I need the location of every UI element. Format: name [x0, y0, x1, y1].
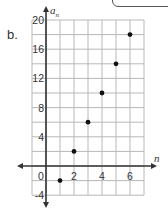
x-tick-label: 2 — [71, 170, 77, 182]
data-point — [86, 120, 91, 125]
x-tick-label: 4 — [99, 170, 105, 182]
y-tick-label: 8 — [38, 102, 44, 114]
x-tick-label: 6 — [127, 170, 133, 182]
scatter-plot: ann20161284-40246 — [0, 0, 168, 210]
y-axis-down-arrow-icon — [43, 202, 49, 208]
x-axis-label: n — [154, 152, 160, 164]
y-tick-label: 16 — [32, 43, 44, 55]
data-point — [100, 91, 105, 96]
data-point — [72, 149, 77, 154]
x-tick-label: 0 — [38, 170, 44, 182]
data-point — [114, 61, 119, 66]
x-axis-left-arrow-icon — [17, 163, 23, 169]
y-tick-label: 4 — [38, 131, 44, 143]
y-tick-label: -4 — [35, 189, 44, 201]
y-tick-label: 12 — [32, 72, 44, 84]
data-point — [128, 32, 133, 37]
y-tick-label: 20 — [32, 14, 44, 26]
y-axis-up-arrow-icon — [43, 6, 49, 12]
y-axis-label: an — [50, 4, 60, 19]
data-point — [58, 178, 63, 183]
